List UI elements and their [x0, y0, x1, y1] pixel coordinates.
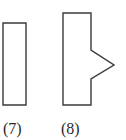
figures-canvas: [0, 0, 126, 140]
figure-7-rectangle: [3, 23, 26, 105]
figure-8-notched-shape: [63, 13, 114, 105]
figure-7-label: (7): [3, 121, 22, 137]
figure-8-label: (8): [61, 121, 80, 137]
